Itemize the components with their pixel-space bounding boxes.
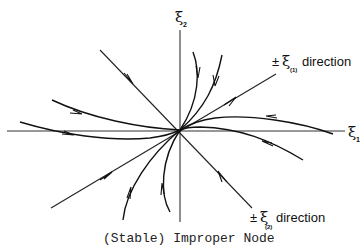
- xi2-direction-line: [100, 50, 252, 208]
- xi1-direction-prefix: ±: [272, 54, 279, 69]
- xi2-direction-prefix: ±: [250, 210, 257, 225]
- xi1-axis-label: ξ 1: [348, 123, 360, 143]
- xi2-direction-text: direction: [276, 210, 325, 225]
- xi2-direction-label: ± ξ (2) direction: [250, 208, 325, 230]
- xi1-direction-text: direction: [302, 54, 351, 69]
- arrow-icon-xi1-upper: [224, 97, 236, 106]
- phase-portrait-svg: ξ 2 ξ 1 ± ξ (1) direction ± ξ (2) direct…: [0, 0, 364, 246]
- arrow-icon-xi1-lower: [100, 172, 112, 180]
- arrow-icon-xi2-upper: [124, 73, 133, 84]
- trajectory-lower-1: [123, 130, 180, 220]
- xi1-direction-label: ± ξ (1) direction: [272, 52, 351, 73]
- xi2-subscript: 2: [183, 21, 187, 28]
- xi2-direction-subscript: (2): [265, 224, 272, 230]
- trajectory-right-2: [180, 127, 303, 160]
- phase-portrait-figure: ξ 2 ξ 1 ± ξ (1) direction ± ξ (2) direct…: [0, 0, 364, 246]
- arrow-icon-traj-r1: [266, 115, 277, 118]
- figure-caption: (Stable) Improper Node: [103, 231, 275, 246]
- xi2-axis-label: ξ 2: [175, 8, 187, 28]
- xi1-direction-subscript: (1): [290, 67, 297, 73]
- arrow-icon-xi2-lower: [218, 171, 227, 182]
- trajectory-upper-1: [180, 52, 197, 130]
- trajectory-upper-left: [52, 100, 180, 130]
- xi1-subscript: 1: [356, 136, 360, 143]
